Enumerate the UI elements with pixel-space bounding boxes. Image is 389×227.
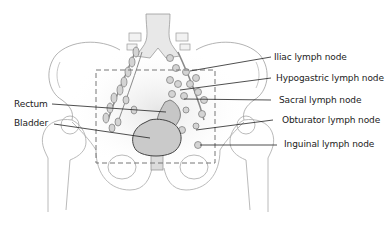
label-sacral-lymph-node: Sacral lymph node (279, 95, 361, 105)
label-inguinal-lymph-node: Inguinal lymph node (284, 139, 374, 149)
label-rectum: Rectum (14, 99, 48, 109)
pelvis-illustration (0, 0, 389, 227)
label-iliac-lymph-node: Iliac lymph node (274, 52, 347, 62)
label-bladder: Bladder (14, 118, 48, 128)
pelvic-lymph-node-diagram: Rectum Bladder Iliac lymph node Hypogast… (0, 0, 389, 227)
label-hypogastric-lymph-node: Hypogastric lymph node (276, 73, 384, 83)
label-obturator-lymph-node: Obturator lymph node (282, 115, 380, 125)
